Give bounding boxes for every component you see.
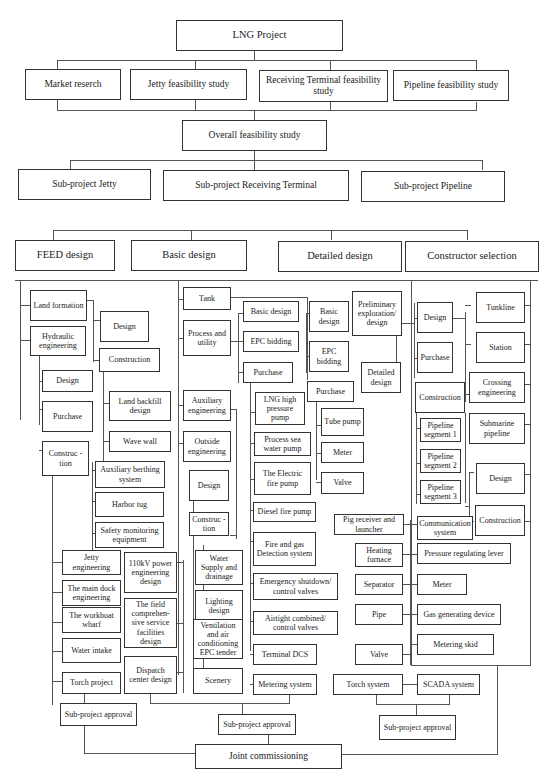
node-sub-construction: Construction	[475, 505, 525, 536]
node-overall-feasibility: Overall feasibility study	[182, 120, 327, 151]
node-terminal-feasibility: Receiving Terminal feasibility study	[259, 70, 388, 102]
node-dispatch-center: Dispatch center design	[124, 656, 177, 694]
node-o-construction: Construc -tion	[189, 512, 229, 536]
node-pipe: Pipe	[355, 604, 403, 625]
node-tank-purchase: Purchase	[307, 381, 354, 402]
node-jetty-approval: Sub-project approval	[60, 703, 137, 726]
node-pl-design: Design	[417, 302, 453, 333]
node-hydraulic-engineering: Hydraulic engineering	[30, 326, 86, 356]
node-pl-construction: Construction	[415, 382, 465, 413]
node-pipeline-segment-2: Pipeline segment 2	[420, 449, 461, 473]
node-pig-receiver: Pig receiver and launcher	[334, 514, 404, 535]
node-electric-fire-pump: The Electric fire pump	[254, 462, 311, 495]
node-land-formation: Land formation	[30, 290, 87, 321]
node-torch-system: Torch system	[333, 674, 403, 695]
node-sub-project-pipeline: Sub-project Pipeline	[361, 171, 505, 202]
node-workboat-wharf: The workboat wharf	[62, 607, 121, 633]
node-airtight-valves: Airtight combined/ control valves	[253, 611, 338, 635]
node-torch-project: Torch project	[62, 672, 121, 694]
node-water-intake: Water intake	[62, 638, 121, 663]
node-scenery: Scenery	[193, 668, 243, 694]
node-auxiliary-engineering: Auxiliary engineering	[183, 390, 231, 421]
node-field-service: The field comprehen- sive service facili…	[124, 598, 177, 648]
node-h-construction: Construc - tion	[42, 441, 89, 476]
node-harbor-tug: Harbor tug	[95, 492, 164, 517]
node-main-dock: The main dock engineering	[62, 580, 121, 606]
phase-feed-design: FEED design	[15, 240, 115, 271]
node-preliminary-exploration: Preliminary exploration/ design	[352, 291, 402, 336]
node-lf-construction: Construction	[99, 348, 160, 372]
phase-detailed-design: Detailed design	[278, 241, 402, 272]
phase-constructor-selection: Constructor selection	[405, 241, 539, 272]
node-tank-epc-bidding: EPC bidding	[309, 341, 349, 372]
node-jetty-feasibility: Jetty feasibility study	[130, 69, 247, 100]
node-pipeline-approval: Sub-project approval	[379, 715, 456, 740]
node-lng-project: LNG Project	[176, 20, 343, 51]
node-metering-system: Metering system	[253, 674, 317, 695]
node-terminal-dcs: Terminal DCS	[253, 644, 317, 665]
node-lf-design: Design	[100, 311, 149, 342]
node-land-backfill: Land backfill design	[109, 391, 171, 421]
node-fire-gas-detection: Fire and gas Detection system	[253, 532, 316, 566]
node-wave-wall: Wave wall	[109, 431, 171, 452]
node-metering-skid: Metering skid	[417, 634, 494, 655]
node-pl-purchase: Purchase	[417, 342, 453, 373]
node-epc-bidding: EPC bidding	[243, 331, 299, 352]
node-scada-system: SCADA system	[417, 674, 480, 695]
node-outside-engineering: Outside engineering	[183, 431, 231, 462]
node-110kv-power: 110kV power engineering design	[124, 552, 177, 593]
node-ventilation: Ventilation and air conditioning EPC ten…	[193, 619, 243, 659]
node-diesel-fire-pump: Diesel fire pump	[253, 502, 316, 522]
node-aux-berthing: Auxiliary berthing system	[95, 461, 165, 488]
node-meter: Meter	[321, 442, 364, 463]
node-process-utility: Process and utility	[183, 320, 231, 356]
node-purchase: Purchase	[243, 362, 293, 383]
node-sub-design: Design	[476, 463, 525, 494]
node-jetty-engineering: Jetty engineering	[62, 550, 121, 575]
node-lng-pump: LNG high pressure pump	[255, 392, 305, 425]
node-h-design: Design	[42, 370, 93, 392]
node-sea-water-pump: Process sea water pump	[254, 432, 311, 456]
node-water-supply: Water Supply and drainage	[195, 550, 243, 585]
node-separator: Separator	[355, 574, 403, 595]
node-crossing-engineering: Crossing engineering	[469, 372, 525, 403]
node-tube-pump: Tube pump	[321, 408, 364, 436]
lng-project-diagram: LNG Project Market reserch Jetty feasibi…	[0, 0, 548, 782]
node-safety-monitoring: Safety monitoring equipment	[95, 522, 164, 548]
node-tank-basic-design: Basic design	[309, 301, 349, 332]
node-h-purchase: Purchase	[42, 401, 93, 432]
node-pipeline-feasibility: Pipeline feasibility study	[393, 70, 509, 101]
node-station: Station	[476, 332, 525, 363]
phase-basic-design: Basic design	[131, 240, 247, 271]
node-market-research: Market reserch	[25, 69, 121, 100]
node-tank: Tank	[183, 287, 231, 310]
node-gas-generating-device: Gas generating device	[417, 604, 501, 625]
node-basic-design: Basic design	[243, 301, 299, 322]
node-submarine-pipeline: Submarine pipeline	[469, 413, 525, 444]
node-joint-commissioning: Joint commissioning	[195, 744, 342, 769]
node-emergency-shutdown: Emergency shutdown/ control valves	[253, 573, 338, 600]
node-lighting-design: Lighting design	[195, 590, 243, 622]
node-sub-project-jetty: Sub-project Jetty	[18, 169, 151, 200]
node-pl-valve: Valve	[355, 644, 403, 665]
node-pipeline-segment-3: Pipeline segment 3	[420, 480, 461, 504]
node-pipeline-segment-1: Pipeline segment 1	[420, 418, 461, 442]
node-communication-system: Communication system	[417, 516, 473, 540]
node-o-design: Design	[189, 470, 229, 501]
node-pl-meter: Meter	[417, 574, 467, 595]
node-valve: Valve	[321, 472, 364, 494]
node-sub-project-terminal: Sub-project Receiving Terminal	[163, 170, 349, 201]
node-pressure-regulating-lever: Pressure regulating lever	[417, 543, 511, 564]
node-tunkline: Tunkline	[476, 292, 525, 323]
node-terminal-approval: Sub-project approval	[218, 714, 296, 735]
node-pl-detailed-design: Detailed design	[361, 362, 401, 393]
node-heating-furnace: Heating furnace	[355, 543, 403, 567]
